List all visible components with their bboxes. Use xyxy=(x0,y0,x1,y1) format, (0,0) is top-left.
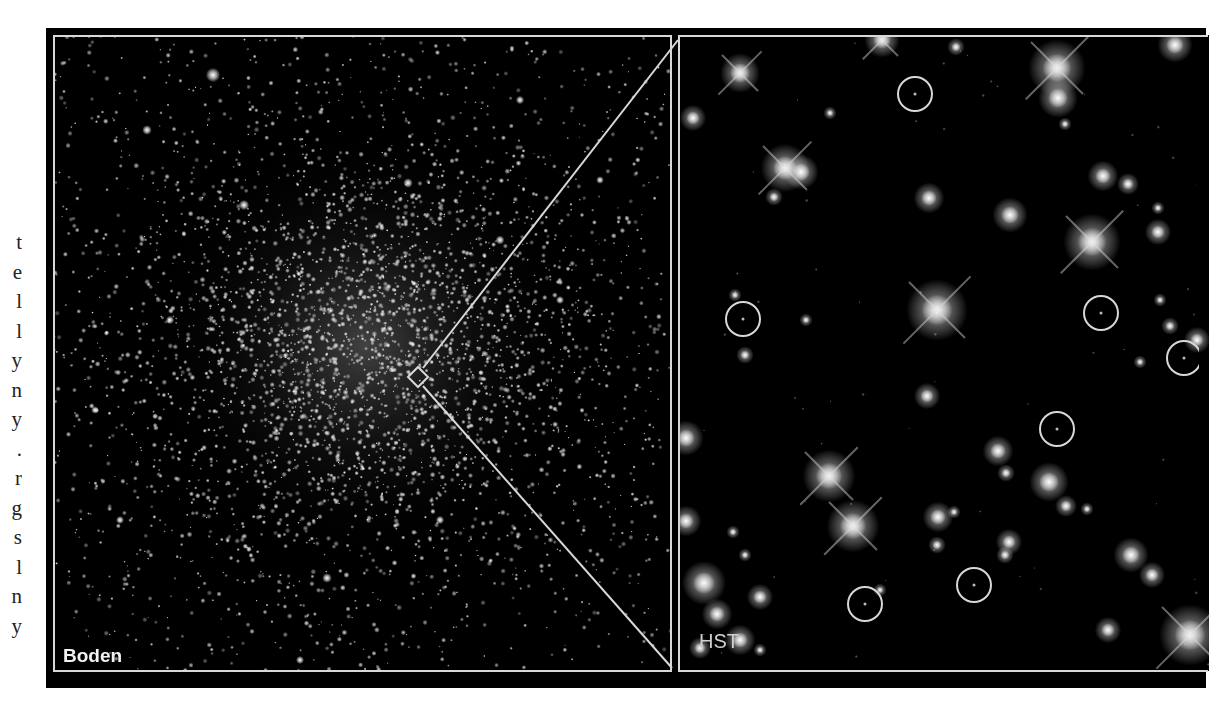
clipped-text-fragment: s xyxy=(0,523,22,553)
clipped-text-fragment: y xyxy=(0,612,22,642)
clipped-text-fragment: g xyxy=(0,494,22,524)
hst-image-panel xyxy=(679,35,1209,671)
clipped-text-fragment: n xyxy=(0,376,22,406)
star-cluster-image xyxy=(53,35,671,671)
clipped-text-fragment: y xyxy=(0,405,22,435)
clipped-text-fragment: l xyxy=(0,553,22,583)
clipped-text-fragment: n xyxy=(0,582,22,612)
clipped-text-fragment: y xyxy=(0,346,22,376)
clipped-text-fragment: r xyxy=(0,464,22,494)
hst-star-field-image xyxy=(679,35,1209,671)
ground-based-image-panel xyxy=(53,35,671,671)
clipped-text-fragment: l xyxy=(0,287,22,317)
clipped-text-fragment: e xyxy=(0,258,22,288)
panel-label-hst: HST xyxy=(699,630,739,653)
clipped-text-fragment: t xyxy=(0,228,22,258)
clipped-body-text: tellyny.rgslny xyxy=(0,228,22,641)
clipped-text-fragment: . xyxy=(0,435,22,465)
panel-label-boden: Boden xyxy=(63,645,122,667)
clipped-text-fragment: l xyxy=(0,317,22,347)
